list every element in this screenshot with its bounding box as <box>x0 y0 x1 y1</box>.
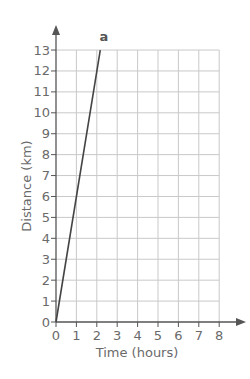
y-axis-arrow-icon <box>52 25 60 35</box>
y-axis-ticks: 012345678910111213 <box>33 43 56 330</box>
x-axis-ticks: 012345678 <box>52 322 223 343</box>
y-axis-title: Distance (km) <box>19 140 34 231</box>
x-tick-label: 3 <box>113 328 121 343</box>
y-tick-label: 6 <box>42 189 50 204</box>
y-tick-label: 0 <box>42 315 50 330</box>
y-tick-label: 9 <box>42 126 50 141</box>
y-tick-label: 11 <box>33 84 50 99</box>
y-tick-label: 13 <box>33 43 50 58</box>
x-tick-label: 4 <box>133 328 141 343</box>
distance-time-chart: 012345678 012345678910111213 a Time (hou… <box>0 0 250 379</box>
x-tick-label: 0 <box>52 328 60 343</box>
y-tick-label: 5 <box>42 210 50 225</box>
y-tick-label: 4 <box>42 231 50 246</box>
y-tick-label: 7 <box>42 168 50 183</box>
y-tick-label: 8 <box>42 147 50 162</box>
y-tick-label: 10 <box>33 105 50 120</box>
x-axis-title: Time (hours) <box>95 345 179 360</box>
x-tick-label: 5 <box>154 328 162 343</box>
x-tick-label: 6 <box>174 328 182 343</box>
x-tick-label: 8 <box>215 328 223 343</box>
series-line-a <box>56 50 100 322</box>
series-label: a <box>100 29 109 44</box>
x-tick-label: 7 <box>195 328 203 343</box>
y-tick-label: 12 <box>33 63 50 78</box>
x-axis-arrow-icon <box>236 318 246 326</box>
grid-lines <box>56 50 219 322</box>
y-tick-label: 1 <box>42 294 50 309</box>
y-tick-label: 2 <box>42 273 50 288</box>
x-tick-label: 2 <box>93 328 101 343</box>
y-tick-label: 3 <box>42 252 50 267</box>
x-tick-label: 1 <box>72 328 80 343</box>
